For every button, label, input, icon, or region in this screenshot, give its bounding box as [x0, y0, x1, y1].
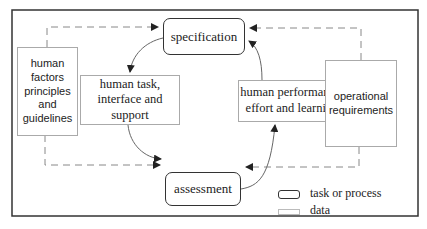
- human-task-line-2: interface and support: [81, 92, 179, 123]
- data-operational[interactable]: operational requirements: [325, 60, 397, 147]
- human-task-line-1: human task,: [81, 77, 179, 93]
- operational-line-1: operational: [329, 90, 393, 104]
- human-factors-line-2: factors: [23, 71, 73, 85]
- specification-label: specification: [171, 29, 237, 45]
- legend-data-label: data: [310, 203, 330, 218]
- process-specification[interactable]: specification: [163, 18, 245, 55]
- human-factors-line-1: human: [23, 57, 73, 71]
- human-factors-line-3: principles: [23, 85, 73, 99]
- human-factors-line-5: guidelines: [23, 112, 73, 126]
- operational-line-2: requirements: [329, 104, 393, 118]
- data-human-factors[interactable]: human factors principles and guidelines: [17, 47, 78, 136]
- legend-data-symbol: [278, 209, 300, 215]
- legend-process-symbol: [278, 190, 300, 199]
- data-human-task[interactable]: human task, interface and support: [80, 75, 180, 125]
- process-assessment[interactable]: assessment: [165, 172, 241, 206]
- assessment-label: assessment: [174, 181, 232, 197]
- legend-process-label: task or process: [310, 186, 381, 201]
- human-factors-line-4: and: [23, 98, 73, 112]
